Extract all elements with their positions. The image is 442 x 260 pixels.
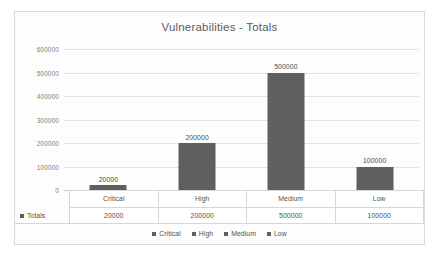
ytick-label-200000: 200000 (37, 140, 59, 147)
table-row-categories: Critical High Medium Low (15, 191, 424, 208)
table-corner-cell (15, 191, 70, 208)
table-cell-low: 100000 (335, 207, 424, 224)
bar-high[interactable] (179, 143, 216, 190)
bar-slot-low: 100000 (330, 49, 419, 190)
chart-title: Vulnerabilities - Totals (15, 21, 424, 33)
ytick-label-400000: 400000 (37, 93, 59, 100)
plot-area: 600000 500000 400000 300000 200000 10000… (64, 49, 419, 190)
ytick-label-300000: 300000 (37, 116, 59, 123)
bar-slot-medium: 500000 (242, 49, 331, 190)
table-row-label-totals: Totals (15, 207, 70, 224)
legend-swatch-icon (267, 232, 271, 236)
ytick-label-100000: 100000 (37, 163, 59, 170)
table-header-medium: Medium (247, 191, 336, 208)
data-table: Critical High Medium Low Totals 20000 20… (15, 190, 424, 224)
legend-swatch-icon (192, 232, 196, 236)
table-cell-high: 200000 (158, 207, 247, 224)
legend-label-critical: Critical (159, 230, 181, 237)
bar-low[interactable] (356, 167, 393, 191)
bar-value-label-low: 100000 (363, 157, 386, 164)
table-header-low: Low (335, 191, 424, 208)
ytick-label-600000: 600000 (37, 46, 59, 53)
legend-swatch-icon (224, 232, 228, 236)
chart-screenshot: { "chart_data": { "type": "bar", "title"… (0, 0, 442, 260)
chart-legend: Critical High Medium Low (15, 230, 424, 237)
bar-value-label-critical: 20000 (99, 176, 118, 183)
table-cell-medium: 500000 (247, 207, 336, 224)
table-header-critical: Critical (70, 191, 159, 208)
legend-item-high[interactable]: High (192, 230, 213, 237)
legend-item-low[interactable]: Low (267, 230, 287, 237)
bar-value-label-high: 200000 (185, 134, 208, 141)
bar-slot-high: 200000 (153, 49, 242, 190)
table-cell-critical: 20000 (70, 207, 159, 224)
bar-slot-critical: 20000 (64, 49, 153, 190)
table-row-totals: Totals 20000 200000 500000 100000 (15, 207, 424, 224)
table-row-label-text: Totals (27, 212, 45, 219)
bar-value-label-medium: 500000 (274, 63, 297, 70)
legend-item-critical[interactable]: Critical (152, 230, 181, 237)
legend-label-low: Low (274, 230, 287, 237)
ytick-label-500000: 500000 (37, 69, 59, 76)
legend-label-high: High (199, 230, 213, 237)
table-header-high: High (158, 191, 247, 208)
legend-swatch-icon (152, 232, 156, 236)
legend-item-medium[interactable]: Medium (224, 230, 256, 237)
chart-frame: Vulnerabilities - Totals 600000 500000 4… (14, 11, 425, 245)
series-marker-icon (20, 214, 24, 218)
bar-series: 20000 200000 500000 100000 (64, 49, 419, 190)
legend-label-medium: Medium (231, 230, 256, 237)
bar-medium[interactable] (267, 73, 304, 191)
